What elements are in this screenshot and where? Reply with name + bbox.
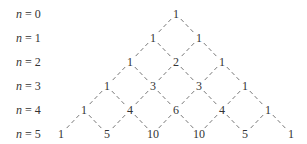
dashed-connector [181, 91, 194, 105]
dashed-connector [158, 115, 171, 129]
dashed-connector [158, 19, 171, 33]
triangle-entry: 2 [173, 56, 179, 68]
triangle-entry: 1 [219, 56, 225, 68]
triangle-entry: 1 [242, 80, 248, 92]
dashed-connector [158, 67, 171, 81]
triangle-entry: 4 [127, 104, 133, 116]
triangle-entry: 1 [196, 32, 202, 44]
triangle-entry: 3 [150, 80, 156, 92]
triangle-entry: 10 [147, 128, 159, 140]
triangle-entry: 1 [81, 104, 87, 116]
dashed-connector [227, 115, 240, 129]
dashed-connector [227, 67, 240, 81]
triangle-entry: 1 [173, 8, 179, 20]
triangle-entry: 5 [242, 128, 248, 140]
dashed-connector [89, 115, 102, 129]
triangle-entry: 4 [219, 104, 225, 116]
dashed-connector [112, 67, 125, 81]
dashed-connector [181, 67, 194, 81]
dashed-connector [112, 115, 125, 129]
dashed-connector [227, 91, 240, 105]
dashed-connector [158, 91, 171, 105]
dashed-connector [250, 91, 263, 105]
dashed-connector [112, 91, 125, 105]
dashed-connector [204, 43, 217, 57]
dashed-connectors [0, 0, 307, 144]
dashed-connector [135, 43, 148, 57]
dashed-connector [204, 91, 217, 105]
triangle-entry: 1 [127, 56, 133, 68]
triangle-entry: 1 [150, 32, 156, 44]
triangle-entry: 1 [58, 128, 64, 140]
triangle-entry: 1 [104, 80, 110, 92]
triangle-entry: 6 [173, 104, 179, 116]
dashed-connector [204, 115, 217, 129]
triangle-entry: 1 [288, 128, 294, 140]
dashed-connector [181, 43, 194, 57]
triangle-entry: 10 [193, 128, 205, 140]
dashed-connector [135, 67, 148, 81]
dashed-connector [89, 91, 102, 105]
dashed-connector [273, 115, 286, 129]
dashed-connector [135, 91, 148, 105]
triangle-entry: 5 [104, 128, 110, 140]
dashed-connector [66, 115, 79, 129]
triangle-entry: 3 [196, 80, 202, 92]
dashed-connector [204, 67, 217, 81]
dashed-connector [250, 115, 263, 129]
dashed-connector [181, 19, 194, 33]
triangle-entry: 1 [265, 104, 271, 116]
dashed-connector [158, 43, 171, 57]
